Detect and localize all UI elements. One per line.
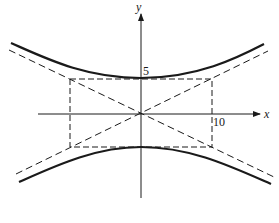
- y-axis-label: y: [135, 0, 142, 14]
- y-tick-label: 5: [143, 64, 149, 78]
- upper-branch: [11, 43, 264, 78]
- x-tick-label: 10: [213, 115, 225, 129]
- x-axis-label: x: [263, 107, 270, 121]
- lower-branch: [19, 147, 271, 184]
- hyperbola-diagram: y x 5 10: [0, 0, 279, 223]
